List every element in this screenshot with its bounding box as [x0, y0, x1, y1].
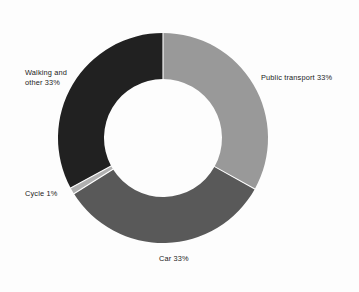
donut-chart: Public transport 33% Walking and other 3… — [0, 0, 359, 292]
slice-label-car: Car 33% — [159, 254, 189, 264]
donut-chart-svg — [0, 0, 359, 292]
slice-label-walking-and-other: Walking and other 33% — [25, 68, 67, 87]
slice-label-public-transport: Public transport 33% — [261, 73, 332, 83]
slice-label-cycle: Cycle 1% — [25, 189, 57, 199]
